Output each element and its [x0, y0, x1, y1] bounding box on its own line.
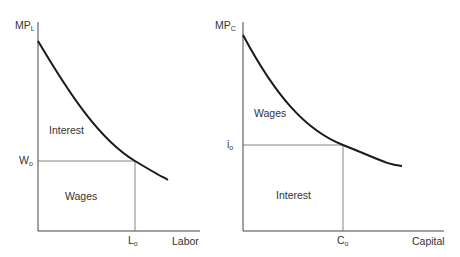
right-area-below-label: Interest — [276, 190, 311, 201]
left-area-above-label: Interest — [49, 125, 84, 136]
right-mpc-curve — [243, 35, 402, 166]
left-y-marker: Wo — [19, 155, 33, 167]
right-area-above-label: Wages — [254, 108, 286, 119]
right-x-axis-label: Capital — [412, 236, 445, 247]
right-y-axis-label: MPC — [215, 20, 236, 32]
left-area-below-label: Wages — [65, 191, 97, 202]
left-x-axis-label: Labor — [172, 236, 199, 247]
left-mpl-curve — [38, 41, 168, 180]
right-y-marker: io — [227, 139, 233, 151]
left-x-marker: Lo — [128, 235, 138, 247]
right-chart — [243, 22, 444, 231]
left-y-axis-label: MPL — [15, 20, 35, 32]
right-x-marker: Co — [337, 235, 349, 247]
